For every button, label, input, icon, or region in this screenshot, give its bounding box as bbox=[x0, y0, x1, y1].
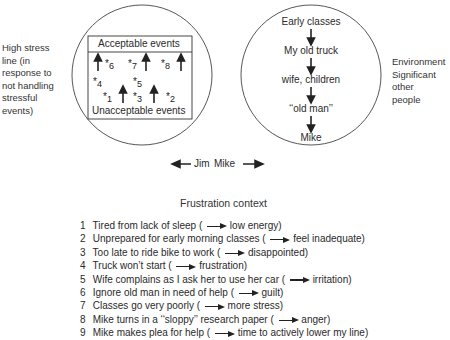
right-arrow-icon bbox=[223, 250, 245, 256]
frustration-list: 1 Tired from lack of sleep ( low energy)… bbox=[80, 219, 368, 340]
right-arrow-icon bbox=[288, 277, 310, 283]
side-label-line: stressful bbox=[2, 92, 54, 105]
chain-old-man: ‘‘old man’’ bbox=[261, 103, 361, 114]
event-marker-5: *5 bbox=[133, 76, 142, 89]
chain-my-old-truck: My old truck bbox=[261, 45, 361, 56]
list-item: 8 Mike turns in a ‘‘sloppy’’ research pa… bbox=[80, 313, 368, 326]
event-marker-1: *1 bbox=[103, 91, 112, 104]
list-item: 9 Mike makes plea for help ( time to act… bbox=[80, 326, 368, 339]
mike-pointer-arrow-icon bbox=[243, 161, 263, 168]
side-label-line: line (in bbox=[2, 55, 54, 68]
event-marker-3: *3 bbox=[133, 91, 142, 104]
right-arrow-icon bbox=[277, 317, 299, 323]
event-marker-4: *4 bbox=[93, 76, 102, 89]
event-marker-2: *2 bbox=[166, 91, 175, 104]
event-marker-6: *6 bbox=[105, 58, 114, 71]
jim-circle bbox=[72, 5, 212, 145]
event-marker-7: *7 bbox=[128, 58, 137, 71]
list-item: 5 Wife complains as I ask her to use her… bbox=[80, 273, 368, 286]
side-label-line: other bbox=[392, 81, 445, 94]
side-label-line: High stress bbox=[2, 42, 54, 55]
right-arrow-icon bbox=[268, 237, 290, 243]
list-item: 3 Too late to ride bike to work ( disapp… bbox=[80, 246, 368, 259]
high-stress-line-label: High stress line (in response to not han… bbox=[2, 42, 54, 117]
right-arrow-icon bbox=[203, 304, 225, 310]
list-item: 7 Classes go very poorly ( more stress) bbox=[80, 299, 368, 312]
list-item: 2 Unprepared for early morning classes (… bbox=[80, 232, 368, 245]
side-label-line: not handling bbox=[2, 80, 54, 93]
environment-label: Environment Significant other people bbox=[392, 56, 445, 106]
frustration-context-title: Frustration context bbox=[180, 197, 267, 209]
acceptable-events-label: Acceptable events bbox=[98, 38, 180, 49]
unacceptable-events-label: Unacceptable events bbox=[92, 105, 185, 116]
list-item: 1 Tired from lack of sleep ( low energy) bbox=[80, 219, 368, 232]
jim-label: Jim bbox=[194, 158, 210, 169]
right-arrow-icon bbox=[213, 331, 235, 337]
side-label-line: response to bbox=[2, 67, 54, 80]
side-label-line: Environment bbox=[392, 56, 445, 69]
right-arrow-icon bbox=[237, 290, 259, 296]
mike-label: Mike bbox=[214, 158, 235, 169]
side-label-line: events) bbox=[2, 105, 54, 118]
side-label-line: people bbox=[392, 94, 445, 107]
right-arrow-icon bbox=[174, 264, 196, 270]
chain-early-classes: Early classes bbox=[261, 16, 361, 27]
jim-pointer-arrow-icon bbox=[172, 161, 191, 168]
event-marker-8: *8 bbox=[161, 58, 170, 71]
chain-wife-children: wife, children bbox=[261, 74, 361, 85]
list-item: 4 Truck won’t start ( frustration) bbox=[80, 259, 368, 272]
right-arrow-icon bbox=[205, 223, 227, 229]
side-label-line: Significant bbox=[392, 69, 445, 82]
list-item: 6 Ignore old man in need of help ( guilt… bbox=[80, 286, 368, 299]
chain-mike: Mike bbox=[261, 132, 361, 143]
